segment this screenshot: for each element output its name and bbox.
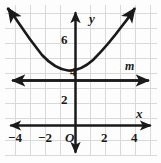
- origin-label: O: [65, 131, 74, 144]
- line-m-label: m: [125, 60, 134, 72]
- y-tick-label-6: 6: [61, 33, 68, 46]
- graph-figure: y x 6 2 4 m −4 −2 O 2 4: [0, 0, 161, 163]
- y-axis-label: y: [89, 12, 95, 25]
- y-tick-label-2: 2: [61, 93, 68, 106]
- x-tick-label-neg2: −2: [38, 131, 52, 144]
- x-tick-label-neg4: −4: [8, 131, 22, 144]
- parabola-left-arrow: [8, 8, 14, 17]
- x-tick-label-2: 2: [101, 131, 108, 144]
- x-tick-label-4: 4: [131, 131, 138, 144]
- parabola-curve: [8, 9, 134, 71]
- vertex-value-label: 4: [70, 66, 76, 78]
- x-axis-label: x: [136, 107, 143, 120]
